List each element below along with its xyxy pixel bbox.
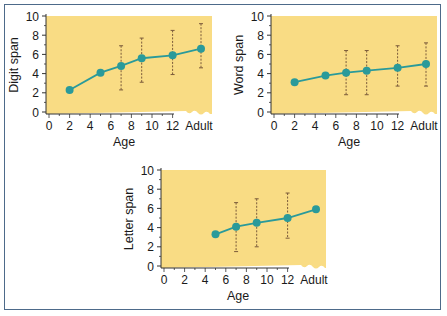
data-point bbox=[322, 72, 330, 80]
data-point bbox=[138, 54, 146, 62]
chart-word-span: Word span Age 0246810024681012Adult bbox=[232, 10, 438, 150]
y-tick-label: 4 bbox=[257, 67, 264, 81]
data-point bbox=[394, 64, 402, 72]
data-point bbox=[232, 223, 240, 231]
y-tick-label: 0 bbox=[257, 106, 264, 120]
data-point bbox=[291, 78, 299, 86]
y-tick-label: 4 bbox=[147, 221, 154, 235]
y-tick-label: 4 bbox=[32, 67, 39, 81]
y-tick-label: 10 bbox=[251, 10, 265, 24]
x-tick-label: Adult bbox=[185, 119, 213, 133]
data-point bbox=[253, 219, 261, 227]
chart-letter-span: Letter span Age 0246810024681012Adult bbox=[122, 164, 328, 304]
x-tick-label: 2 bbox=[181, 273, 188, 287]
y-axis-title: Letter span bbox=[122, 188, 136, 251]
x-tick-label: 6 bbox=[332, 119, 339, 133]
y-tick-label: 10 bbox=[141, 164, 155, 178]
x-tick-label: 0 bbox=[271, 119, 278, 133]
x-tick-label: 6 bbox=[222, 273, 229, 287]
y-tick-label: 2 bbox=[257, 86, 264, 100]
x-tick-label: 10 bbox=[260, 273, 274, 287]
x-tick-label: 12 bbox=[281, 273, 295, 287]
x-tick-label: 8 bbox=[353, 119, 360, 133]
x-tick-label: 2 bbox=[66, 119, 73, 133]
x-tick-label: Adult bbox=[300, 273, 328, 287]
y-tick-label: 0 bbox=[32, 106, 39, 120]
x-tick-label: 12 bbox=[166, 119, 180, 133]
data-point bbox=[97, 69, 105, 77]
x-tick-label: 8 bbox=[243, 273, 250, 287]
data-point bbox=[342, 69, 350, 77]
chart-digit-span: Digit span Age 0246810024681012Adult bbox=[7, 10, 213, 150]
data-point bbox=[197, 45, 205, 53]
y-tick-label: 6 bbox=[32, 48, 39, 62]
data-point bbox=[422, 60, 430, 68]
y-axis-title: Digit span bbox=[7, 37, 21, 93]
x-tick-label: 2 bbox=[291, 119, 298, 133]
y-axis-title: Word span bbox=[232, 35, 246, 95]
x-axis-title: Age bbox=[227, 289, 249, 303]
data-point bbox=[212, 230, 220, 238]
y-tick-label: 6 bbox=[257, 48, 264, 62]
y-tick-label: 8 bbox=[147, 183, 154, 197]
y-tick-label: 10 bbox=[26, 10, 40, 24]
x-axis-title: Age bbox=[338, 135, 360, 149]
x-tick-label: 10 bbox=[145, 119, 159, 133]
data-point bbox=[66, 86, 74, 94]
x-tick-label: 4 bbox=[87, 119, 94, 133]
x-tick-label: 4 bbox=[312, 119, 319, 133]
x-tick-label: 4 bbox=[202, 273, 209, 287]
x-tick-label: 6 bbox=[107, 119, 114, 133]
x-tick-label: 8 bbox=[128, 119, 135, 133]
x-tick-label: 0 bbox=[161, 273, 168, 287]
data-point bbox=[363, 67, 371, 75]
x-tick-label: Adult bbox=[410, 119, 438, 133]
y-tick-label: 2 bbox=[32, 86, 39, 100]
y-tick-label: 0 bbox=[147, 260, 154, 274]
x-tick-label: 10 bbox=[370, 119, 384, 133]
x-axis-title: Age bbox=[113, 135, 135, 149]
data-point bbox=[117, 62, 125, 70]
y-tick-label: 6 bbox=[147, 202, 154, 216]
y-tick-label: 8 bbox=[257, 29, 264, 43]
data-point bbox=[284, 214, 292, 222]
y-tick-label: 8 bbox=[32, 29, 39, 43]
plot-area bbox=[46, 16, 212, 115]
data-point bbox=[312, 205, 320, 213]
x-tick-label: 12 bbox=[391, 119, 405, 133]
y-tick-label: 2 bbox=[147, 240, 154, 254]
plot-area bbox=[161, 170, 326, 269]
figure-canvas: Digit span Age 0246810024681012Adult Wor… bbox=[0, 0, 447, 316]
data-point bbox=[169, 51, 177, 59]
x-tick-label: 0 bbox=[46, 119, 53, 133]
